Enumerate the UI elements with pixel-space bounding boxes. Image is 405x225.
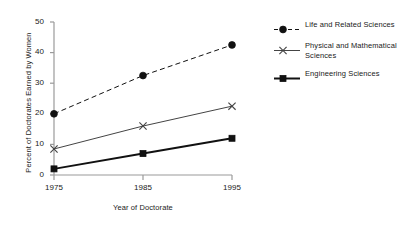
legend-label: Life and Related Sciences <box>305 20 395 30</box>
chart-series <box>51 135 235 172</box>
legend-marker-x-icon <box>274 42 300 53</box>
legend-marker-square-icon <box>274 70 300 81</box>
legend-item: Physical and Mathematical Sciences <box>274 41 405 60</box>
y-tick-label: 30 <box>22 78 44 87</box>
y-tick-label: 40 <box>22 47 44 56</box>
x-tick-label: 1995 <box>212 183 252 192</box>
legend-item: Engineering Sciences <box>274 69 405 81</box>
chart-series-layer <box>50 42 235 172</box>
y-tick-label: 50 <box>22 17 44 26</box>
chart-legend: Life and Related SciencesPhysical and Ma… <box>274 20 405 90</box>
chart-series <box>50 103 235 153</box>
x-tick-label: 1985 <box>123 183 163 192</box>
x-axis-title: Year of Doctorate <box>48 203 238 212</box>
chart-series <box>51 42 236 118</box>
x-tick-label: 1975 <box>34 183 74 192</box>
chart-figure: Percent of Doctorates Earned by Women Ye… <box>0 0 405 225</box>
legend-item: Life and Related Sciences <box>274 20 405 32</box>
y-tick-label: 10 <box>22 139 44 148</box>
y-tick-label: 0 <box>22 170 44 179</box>
y-tick-label: 20 <box>22 108 44 117</box>
legend-label: Engineering Sciences <box>305 69 380 79</box>
legend-label: Physical and Mathematical Sciences <box>305 41 405 60</box>
legend-marker-circle-icon <box>274 21 300 32</box>
